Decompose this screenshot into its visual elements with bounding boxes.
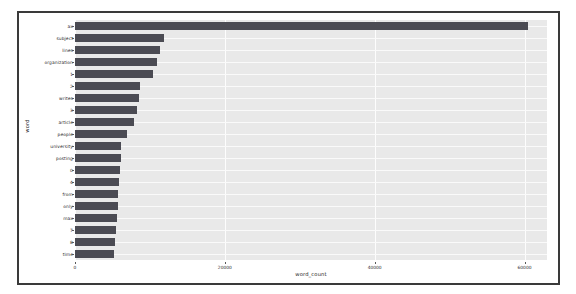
y-tick-mark [72, 170, 74, 171]
y-tick-mark [72, 134, 74, 135]
bar [75, 226, 116, 234]
y-tick-label: only [19, 204, 73, 209]
y-tick-mark [72, 98, 74, 99]
y-tick-mark [72, 62, 74, 63]
bar [75, 142, 121, 150]
bar [75, 214, 117, 222]
y-tick-label: from [19, 192, 73, 197]
gridline-vertical [225, 20, 226, 260]
x-tick-mark [525, 262, 526, 264]
bar [75, 250, 114, 258]
y-tick-mark [72, 206, 74, 207]
y-tick-mark [72, 194, 74, 195]
x-axis-label: word_count [75, 271, 547, 277]
y-tick-label: ax [19, 24, 73, 29]
bar [75, 82, 140, 90]
bar [75, 70, 153, 78]
bar [75, 202, 118, 210]
screenshot-root: axsubjectlinesorganization12writes3artic… [0, 0, 576, 294]
y-tick-label: 4 [19, 180, 73, 185]
y-tick-mark [72, 230, 74, 231]
gridline-horizontal [75, 254, 547, 255]
y-tick-mark [72, 86, 74, 87]
bar [75, 106, 137, 114]
figure-canvas: axsubjectlinesorganization12writes3artic… [19, 13, 558, 283]
y-tick-mark [72, 218, 74, 219]
gridline-horizontal [75, 110, 547, 111]
y-tick-mark [72, 122, 74, 123]
y-tick-label: organization [19, 60, 73, 65]
y-tick-label: time [19, 252, 73, 257]
gridline-horizontal [75, 122, 547, 123]
bar [75, 166, 120, 174]
gridline-horizontal [75, 182, 547, 183]
y-tick-mark [72, 146, 74, 147]
gridline-horizontal [75, 242, 547, 243]
y-tick-mark [72, 242, 74, 243]
y-axis-label: word [24, 106, 30, 146]
y-tick-mark [72, 26, 74, 27]
gridline-horizontal [75, 230, 547, 231]
y-tick-label: posting [19, 156, 73, 161]
gridline-horizontal [75, 134, 547, 135]
y-tick-label: subject [19, 36, 73, 41]
figure-output-frame: axsubjectlinesorganization12writes3artic… [17, 11, 560, 285]
y-tick-label: 0 [19, 168, 73, 173]
y-tick-label: writes [19, 96, 73, 101]
y-tick-label: lines [19, 48, 73, 53]
bar [75, 46, 160, 54]
x-tick-mark [225, 262, 226, 264]
gridline-vertical [525, 20, 526, 260]
gridline-horizontal [75, 206, 547, 207]
y-tick-mark [72, 158, 74, 159]
gridline-vertical [75, 20, 76, 260]
bar [75, 22, 528, 30]
bar [75, 118, 134, 126]
bar [75, 94, 139, 102]
plot-area [75, 20, 547, 260]
bar [75, 178, 119, 186]
y-tick-mark [72, 38, 74, 39]
y-tick-label: 2 [19, 84, 73, 89]
gridline-horizontal [75, 86, 547, 87]
y-tick-mark [72, 182, 74, 183]
y-tick-mark [72, 74, 74, 75]
bar [75, 130, 127, 138]
y-tick-mark [72, 254, 74, 255]
y-tick-mark [72, 50, 74, 51]
gridline-vertical [375, 20, 376, 260]
x-tick-mark [75, 262, 76, 264]
bar [75, 154, 121, 162]
gridline-horizontal [75, 218, 547, 219]
y-tick-label: 7 [19, 228, 73, 233]
y-axis-tick-marks [72, 20, 75, 260]
y-tick-label: max [19, 216, 73, 221]
gridline-horizontal [75, 158, 547, 159]
y-tick-label: 1 [19, 72, 73, 77]
y-tick-label: 8 [19, 240, 73, 245]
bar [75, 190, 118, 198]
x-tick-mark [375, 262, 376, 264]
bar [75, 34, 164, 42]
bar [75, 238, 115, 246]
gridline-horizontal [75, 170, 547, 171]
y-tick-mark [72, 110, 74, 111]
gridline-horizontal [75, 194, 547, 195]
gridline-horizontal [75, 146, 547, 147]
bar [75, 58, 157, 66]
gridline-horizontal [75, 98, 547, 99]
